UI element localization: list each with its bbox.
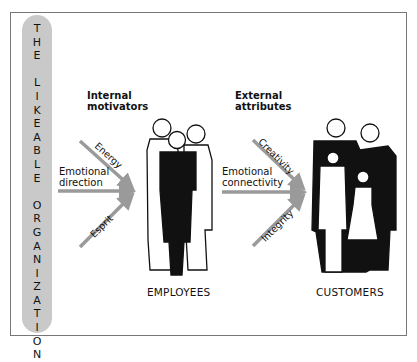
emotional-connectivity-line2: connectivity [222,177,283,188]
arrow-emotional-connectivity-label: Emotional connectivity [222,166,283,188]
external-heading-line1: External [235,90,291,101]
emotional-direction-line2: direction [59,177,109,188]
external-heading-line2: attributes [235,101,291,112]
external-heading: External attributes [235,90,291,112]
customers-figure [312,119,396,272]
arrow-emotional-direction-label: Emotional direction [59,166,109,188]
emotional-direction-line1: Emotional [59,166,109,177]
customers-label: CUSTOMERS [316,286,384,298]
employees-figure [147,119,212,275]
employees-label: EMPLOYEES [147,286,210,298]
emotional-connectivity-line1: Emotional [222,166,283,177]
sidebar-letter: N [22,348,52,362]
